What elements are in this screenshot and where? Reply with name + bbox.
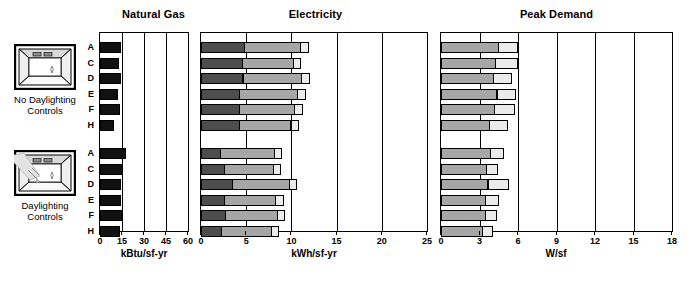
axis-tick-mark xyxy=(99,231,100,235)
bar-segment-other xyxy=(494,104,515,115)
axis-tick-mark xyxy=(121,231,122,235)
bar-segment-cooling xyxy=(441,104,495,115)
axis-tick-mark xyxy=(426,231,427,235)
bar-row[interactable] xyxy=(201,104,303,115)
bar-segment-cooling xyxy=(224,164,275,175)
axis-label-natural-gas: kBtu/sf-yr xyxy=(121,248,168,259)
axis-tick-mark xyxy=(187,231,188,235)
bar-segment-lighting xyxy=(201,164,225,175)
axis-tick-label: 18 xyxy=(667,236,677,246)
bar-segment-lighting xyxy=(201,73,243,84)
bar-row[interactable] xyxy=(201,73,310,84)
axis-tick-mark xyxy=(336,231,337,235)
bar-segment-other xyxy=(274,148,282,159)
bar-row[interactable] xyxy=(201,210,285,221)
bar-row[interactable] xyxy=(100,89,118,100)
bar-row[interactable] xyxy=(441,73,512,84)
row-label-daylighting-a: A xyxy=(80,148,94,158)
bar-segment-heating xyxy=(100,148,126,159)
bar-segment-other xyxy=(301,73,310,84)
bar-row[interactable] xyxy=(100,195,121,206)
bar-segment-heating xyxy=(100,164,123,175)
bar-segment-heating xyxy=(100,58,119,69)
bar-row[interactable] xyxy=(441,58,518,69)
axis-tick-mark xyxy=(143,231,144,235)
bar-rows xyxy=(441,33,672,231)
axis-label-peak-demand: W/sf xyxy=(545,248,566,259)
row-label-daylighting-e: E xyxy=(80,195,94,205)
bar-row[interactable] xyxy=(100,58,119,69)
bar-row[interactable] xyxy=(100,104,120,115)
bar-segment-other xyxy=(489,120,508,131)
bar-row[interactable] xyxy=(441,89,516,100)
bar-segment-lighting xyxy=(201,58,243,69)
bar-segment-other xyxy=(485,195,499,206)
bar-row[interactable] xyxy=(201,89,306,100)
bar-row[interactable] xyxy=(100,148,126,159)
plot-area-electricity[interactable] xyxy=(200,32,428,232)
bar-row[interactable] xyxy=(201,179,297,190)
bar-row[interactable] xyxy=(441,226,493,237)
axis-tick-mark xyxy=(245,231,246,235)
axis-tick-label: 9 xyxy=(554,236,559,246)
bar-row[interactable] xyxy=(201,58,301,69)
row-label-daylighting-f: F xyxy=(80,210,94,220)
axis-tick-mark xyxy=(633,231,634,235)
bar-row[interactable] xyxy=(100,164,123,175)
row-label-daylighting-h: H xyxy=(80,226,94,236)
bar-segment-lighting xyxy=(201,148,221,159)
bar-segment-heating xyxy=(100,195,121,206)
bar-row[interactable] xyxy=(100,73,121,84)
bar-segment-lighting xyxy=(201,104,240,115)
bar-row[interactable] xyxy=(100,210,122,221)
axis-tick-label: 45 xyxy=(161,236,171,246)
bar-segment-cooling xyxy=(232,179,290,190)
bar-row[interactable] xyxy=(441,195,499,206)
room-daylighting-icon xyxy=(14,150,76,196)
bar-row[interactable] xyxy=(100,42,121,53)
axis-tick-label: 12 xyxy=(590,236,600,246)
bar-row[interactable] xyxy=(441,104,515,115)
bar-row[interactable] xyxy=(201,120,299,131)
row-label-daylighting-c: C xyxy=(80,164,94,174)
bar-row[interactable] xyxy=(201,164,281,175)
row-label-no-daylighting-f: F xyxy=(80,104,94,114)
bar-row[interactable] xyxy=(441,120,508,131)
axis-tick-mark xyxy=(556,231,557,235)
bar-segment-other xyxy=(294,104,303,115)
bar-segment-lighting xyxy=(201,42,245,53)
axis-tick-mark xyxy=(440,231,441,235)
bar-row[interactable] xyxy=(441,179,509,190)
bar-segment-heating xyxy=(100,179,121,190)
bar-segment-heating xyxy=(100,73,121,84)
bar-rows xyxy=(201,33,427,231)
bar-row[interactable] xyxy=(441,210,497,221)
axis-tick-label: 10 xyxy=(286,236,296,246)
bar-segment-cooling xyxy=(225,210,277,221)
row-label-no-daylighting-d: D xyxy=(80,73,94,83)
axis-tick-mark xyxy=(381,231,382,235)
axis-tick-mark xyxy=(290,231,291,235)
bar-segment-cooling xyxy=(441,42,499,53)
axis-tick-mark xyxy=(200,231,201,235)
bar-segment-lighting xyxy=(201,179,233,190)
bar-row[interactable] xyxy=(201,42,309,53)
bar-row[interactable] xyxy=(441,164,498,175)
bar-segment-other xyxy=(488,179,510,190)
bar-row[interactable] xyxy=(441,42,518,53)
figure-root: No Daylighting Controls Daylighting Cont… xyxy=(0,0,690,291)
bar-row[interactable] xyxy=(201,148,282,159)
bar-row[interactable] xyxy=(441,148,504,159)
bar-row[interactable] xyxy=(201,195,284,206)
bar-row[interactable] xyxy=(100,120,114,131)
bar-segment-cooling xyxy=(441,89,497,100)
bar-row[interactable] xyxy=(201,226,279,237)
bar-row[interactable] xyxy=(100,179,121,190)
plot-area-natural-gas[interactable] xyxy=(99,32,189,232)
axis-tick-mark xyxy=(479,231,480,235)
plot-area-peak-demand[interactable] xyxy=(440,32,673,232)
room-no-daylighting-icon xyxy=(14,44,76,90)
axis-label-electricity: kWh/sf-yr xyxy=(291,248,337,259)
bar-segment-cooling xyxy=(220,148,275,159)
bar-segment-other xyxy=(273,164,281,175)
